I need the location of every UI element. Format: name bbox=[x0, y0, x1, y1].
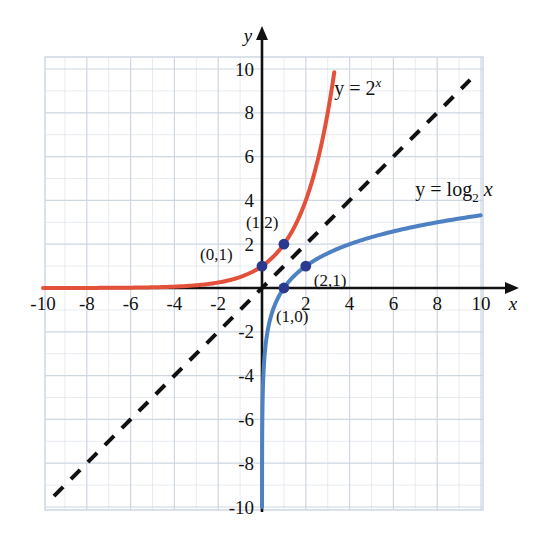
y-tick-label: 6 bbox=[245, 146, 255, 167]
exponential-curve-label: y = 2x bbox=[334, 75, 381, 100]
data-point bbox=[279, 239, 290, 250]
x-tick-label: -4 bbox=[166, 293, 182, 314]
y-tick-label: -10 bbox=[229, 497, 254, 518]
x-tick-label: 10 bbox=[472, 293, 491, 314]
x-tick-label: 6 bbox=[389, 293, 399, 314]
data-point bbox=[279, 283, 290, 294]
x-axis-label: x bbox=[508, 293, 518, 314]
data-point bbox=[300, 261, 311, 272]
x-tick-label: 4 bbox=[345, 293, 355, 314]
y-tick-label: 10 bbox=[235, 59, 254, 80]
y-tick-label: 2 bbox=[245, 234, 255, 255]
y-tick-label: -2 bbox=[238, 321, 254, 342]
data-point-label: (0,1) bbox=[200, 245, 233, 264]
data-point-label: (1,2) bbox=[246, 213, 279, 232]
data-point bbox=[257, 261, 268, 272]
x-tick-label: 2 bbox=[301, 293, 311, 314]
y-tick-label: -4 bbox=[238, 365, 254, 386]
x-tick-label: -2 bbox=[210, 293, 226, 314]
x-tick-label: 8 bbox=[432, 293, 442, 314]
x-tick-label: -8 bbox=[79, 293, 95, 314]
y-tick-label: 4 bbox=[245, 190, 255, 211]
y-tick-label: -6 bbox=[238, 409, 254, 430]
y-tick-label: 8 bbox=[245, 102, 255, 123]
data-point-label: (2,1) bbox=[314, 271, 347, 290]
y-tick-label: -8 bbox=[238, 453, 254, 474]
x-tick-label: -6 bbox=[123, 293, 139, 314]
y-axis-label: y bbox=[242, 25, 253, 46]
chart-canvas: (0,1)(1,2)(2,1)(1,0) -10-8-6-4-2246810-1… bbox=[0, 0, 542, 545]
function-graph: (0,1)(1,2)(2,1)(1,0) -10-8-6-4-2246810-1… bbox=[0, 0, 542, 545]
x-tick-label: -10 bbox=[30, 293, 55, 314]
